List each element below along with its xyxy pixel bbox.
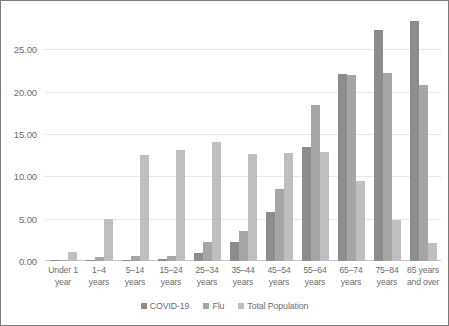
bar <box>284 153 293 261</box>
bar <box>86 260 95 261</box>
legend-swatch-icon <box>141 303 147 309</box>
bar <box>311 105 320 261</box>
bar <box>266 212 275 261</box>
y-tick-label: 20.00 <box>14 86 37 97</box>
x-tick-label: 75–84years <box>369 263 405 299</box>
x-tick-label: 85 yearsand over <box>405 263 441 299</box>
bar <box>59 260 68 261</box>
legend-swatch-icon <box>238 303 244 309</box>
bar <box>131 256 140 261</box>
x-tick-label-line: years <box>333 277 369 289</box>
bar <box>410 21 419 261</box>
x-tick-label: 1–4years <box>81 263 117 299</box>
legend-item[interactable]: COVID-19 <box>141 301 190 311</box>
bar-group <box>261 11 297 261</box>
bar-group <box>81 11 117 261</box>
y-tick-label: 10.00 <box>14 171 37 182</box>
x-tick-label-line: year <box>45 277 81 289</box>
x-tick-label: Under 1year <box>45 263 81 299</box>
legend-label: Flu <box>212 301 224 311</box>
y-tick-label: 5.00 <box>19 213 37 224</box>
bar-group <box>333 11 369 261</box>
y-tick-label: 0.00 <box>19 256 37 267</box>
bar <box>356 181 365 261</box>
x-tick-label-line: years <box>369 277 405 289</box>
x-tick-label-line: 75–84 <box>369 265 405 277</box>
x-tick-label: 55–64years <box>297 263 333 299</box>
bar <box>347 75 356 261</box>
bar-group <box>189 11 225 261</box>
bar-group <box>153 11 189 261</box>
legend-swatch-icon <box>203 303 209 309</box>
x-tick-label-line: years <box>189 277 225 289</box>
bars-layer <box>45 11 441 261</box>
bar <box>194 253 203 261</box>
x-tick-label-line: years <box>153 277 189 289</box>
x-tick-label-line: and over <box>405 277 441 289</box>
bar <box>302 147 311 261</box>
x-tick-label-line: 55–64 <box>297 265 333 277</box>
x-tick-label-line: years <box>81 277 117 289</box>
bar <box>158 259 167 261</box>
bar <box>167 256 176 261</box>
legend-item[interactable]: Total Population <box>238 301 308 311</box>
y-axis: 0.005.0010.0015.0020.0025.00 <box>1 11 41 261</box>
bar <box>50 260 59 261</box>
x-tick-label: 25–34years <box>189 263 225 299</box>
bar <box>95 257 104 261</box>
bar <box>230 242 239 261</box>
bar <box>320 152 329 261</box>
x-tick-label-line: years <box>297 277 333 289</box>
y-tick-label: 15.00 <box>14 128 37 139</box>
x-tick-label-line: 45–54 <box>261 265 297 277</box>
chart-legend: COVID-19FluTotal Population <box>1 301 448 311</box>
x-tick-label-line: 25–34 <box>189 265 225 277</box>
bar <box>122 260 131 261</box>
legend-item[interactable]: Flu <box>203 301 224 311</box>
x-tick-label-line: 1–4 <box>81 265 117 277</box>
x-tick-label-line: years <box>117 277 153 289</box>
bar <box>68 252 77 261</box>
x-tick-label: 35–44years <box>225 263 261 299</box>
x-tick-label-line: 35–44 <box>225 265 261 277</box>
y-tick-label: 25.00 <box>14 44 37 55</box>
x-axis: Under 1year1–4years5–14years15–24years25… <box>45 263 441 299</box>
bar <box>428 243 437 261</box>
bar-group <box>225 11 261 261</box>
x-tick-label-line: 65–74 <box>333 265 369 277</box>
legend-label: COVID-19 <box>150 301 190 311</box>
x-tick-label: 15–24years <box>153 263 189 299</box>
bar <box>275 189 284 261</box>
x-tick-label: 5–14years <box>117 263 153 299</box>
bar <box>203 242 212 261</box>
bar <box>212 142 221 261</box>
x-tick-label: 65–74years <box>333 263 369 299</box>
bar-group <box>297 11 333 261</box>
bar <box>338 74 347 261</box>
bar-group <box>405 11 441 261</box>
chart-container: 0.005.0010.0015.0020.0025.00 Under 1year… <box>0 0 449 326</box>
bar <box>140 155 149 261</box>
x-tick-label: 45–54years <box>261 263 297 299</box>
x-tick-label-line: 85 years <box>405 265 441 277</box>
bar-group <box>117 11 153 261</box>
legend-label: Total Population <box>247 301 308 311</box>
x-tick-label-line: years <box>225 277 261 289</box>
x-tick-label-line: years <box>261 277 297 289</box>
bar <box>374 30 383 261</box>
bar <box>383 73 392 261</box>
bar <box>176 150 185 261</box>
bar-group <box>369 11 405 261</box>
x-tick-label-line: 5–14 <box>117 265 153 277</box>
bar <box>248 154 257 261</box>
bar <box>104 219 113 261</box>
x-tick-label-line: Under 1 <box>45 265 81 277</box>
bar <box>392 220 401 261</box>
bar <box>239 231 248 262</box>
bar <box>419 85 428 261</box>
x-tick-label-line: 15–24 <box>153 265 189 277</box>
plot-area <box>45 11 441 261</box>
bar-group <box>45 11 81 261</box>
